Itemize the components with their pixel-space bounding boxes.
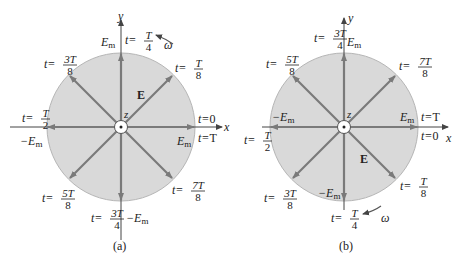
fraction-numerator: 7T <box>419 55 432 67</box>
time-prefix: t= <box>314 31 325 45</box>
time-text: t=T <box>198 131 217 145</box>
time-label-t6: t=3T4 <box>314 27 347 51</box>
time-text: t=T <box>421 110 440 124</box>
caption-a: (a) <box>113 239 126 253</box>
amp-neg-x: −Em <box>20 134 42 149</box>
time-prefix: t= <box>22 111 33 125</box>
fraction-numerator: T <box>351 207 358 219</box>
time-label-t0: t=0 <box>198 112 215 126</box>
time-label-t2: t=T4 <box>125 29 153 53</box>
svg-text:Em: Em <box>100 35 115 50</box>
time-label-t4: t=T2 <box>244 129 272 153</box>
fraction-denominator: 8 <box>196 69 202 81</box>
svg-text:−Em: −Em <box>126 211 148 226</box>
field-label-E: E <box>360 152 368 166</box>
time-label-tT: t=T <box>421 110 440 124</box>
fraction-denominator: 4 <box>352 219 358 231</box>
time-label-t5: t=5T8 <box>42 187 75 211</box>
time-prefix: t= <box>44 57 55 71</box>
y-axis-label: y <box>117 9 124 23</box>
time-prefix: t= <box>331 211 342 225</box>
fraction-denominator: 8 <box>422 67 428 79</box>
omega-label: ω <box>381 211 389 225</box>
time-prefix: t= <box>91 211 102 225</box>
y-axis-label: y <box>347 11 354 25</box>
fraction-denominator: 2 <box>265 141 271 153</box>
time-prefix: t= <box>175 61 186 75</box>
svg-text:Em: Em <box>346 35 361 50</box>
omega-label: ω <box>164 38 172 52</box>
caption-b: (b) <box>339 239 353 253</box>
time-label-t3: t=3T8 <box>44 53 77 77</box>
panel-b: y x z E ω Em Em −Em −Em t=T t=0 t=7T8 t=… <box>244 11 452 253</box>
panel-a: y x z E ω Em Em −Em −Em t=0 t=T t=T8 t=T… <box>10 9 230 253</box>
time-label-t3: t=3T8 <box>264 187 297 211</box>
field-label-E: E <box>137 88 145 102</box>
time-prefix: t= <box>264 191 275 205</box>
omega-rotation-arrow <box>363 206 381 214</box>
time-label-t5: t=5T8 <box>266 53 299 77</box>
time-prefix: t= <box>266 57 277 71</box>
time-text: t=0 <box>198 112 215 126</box>
time-prefix: t= <box>172 183 183 197</box>
time-label-t2: t=T4 <box>331 207 359 231</box>
fraction-numerator: T <box>42 107 49 119</box>
time-label-t0: t=0 <box>421 129 438 143</box>
fraction-numerator: T <box>145 29 152 41</box>
time-label-t1: t=T8 <box>400 175 428 199</box>
amp-pos-y: Em <box>346 35 361 50</box>
fraction-denominator: 4 <box>337 39 343 51</box>
time-label-t7: t=7T8 <box>399 55 432 79</box>
diagram-canvas: y x z E ω Em Em −Em −Em t=0 t=T t=T8 t=T… <box>0 0 463 264</box>
time-label-t1: t=T8 <box>175 57 203 81</box>
time-label-t7: t=7T8 <box>172 179 205 203</box>
time-text: t=0 <box>421 129 438 143</box>
fraction-denominator: 4 <box>146 41 152 53</box>
fraction-denominator: 2 <box>43 119 49 131</box>
fraction-numerator: 3T <box>333 27 347 39</box>
z-axis-label: z <box>123 108 129 120</box>
fraction-numerator: 3T <box>110 207 124 219</box>
fraction-numerator: 7T <box>192 179 205 191</box>
fraction-denominator: 8 <box>195 191 201 203</box>
fraction-denominator: 8 <box>65 199 71 211</box>
z-axis-dot <box>120 126 123 129</box>
svg-text:−Em: −Em <box>20 134 42 149</box>
fraction-denominator: 4 <box>114 219 120 231</box>
fraction-denominator: 8 <box>287 199 293 211</box>
fraction-numerator: T <box>264 129 271 141</box>
time-prefix: t= <box>399 59 410 73</box>
fraction-numerator: 3T <box>63 53 77 65</box>
z-axis-dot <box>343 126 346 129</box>
fraction-numerator: 5T <box>62 187 75 199</box>
z-axis-label: z <box>346 108 352 120</box>
fraction-numerator: T <box>195 57 202 69</box>
fraction-denominator: 8 <box>421 187 427 199</box>
time-prefix: t= <box>400 179 411 193</box>
fraction-numerator: T <box>420 175 427 187</box>
time-prefix: t= <box>125 33 136 47</box>
amp-neg-y: −Em <box>126 211 148 226</box>
x-axis-label: x <box>445 131 452 145</box>
fraction-numerator: 3T <box>283 187 297 199</box>
fraction-numerator: 5T <box>286 53 299 65</box>
time-prefix: t= <box>244 133 255 147</box>
time-label-tT: t=T <box>198 131 217 145</box>
amp-pos-y: Em <box>100 35 115 50</box>
fraction-denominator: 8 <box>67 65 73 77</box>
time-prefix: t= <box>42 191 53 205</box>
time-label-t6: t=3T4 <box>91 207 124 231</box>
fraction-denominator: 8 <box>289 65 295 77</box>
x-axis-label: x <box>223 120 230 134</box>
